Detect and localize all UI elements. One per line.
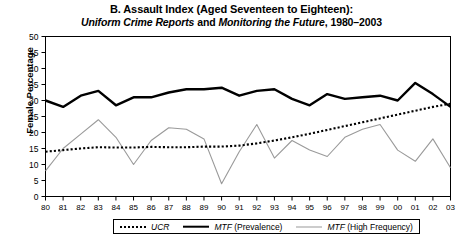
x-tick-label: 83 — [94, 203, 103, 212]
y-tick-label: 25 — [29, 112, 39, 122]
x-tick-label: 86 — [147, 203, 156, 212]
x-tick-label: 80 — [41, 203, 50, 212]
legend-label-high-italic: MTF — [327, 222, 344, 232]
y-tick-label: 5 — [34, 176, 39, 186]
legend-item-mtf-high-frequency: MTF (High Frequency) — [296, 222, 413, 232]
legend-item-ucr: UCR — [120, 222, 169, 232]
plot-area: 05101520253035404550 8081828384858687888… — [0, 0, 463, 215]
x-tick-label: 97 — [340, 203, 349, 212]
y-tick-label: 45 — [29, 48, 39, 58]
legend-label-mtf-prevalence: MTF (Prevalence) — [214, 222, 282, 232]
x-axis-ticks: 8081828384858687888990919293949596979899… — [41, 197, 455, 212]
y-tick-label: 40 — [29, 64, 39, 74]
x-tick-label: 96 — [323, 203, 332, 212]
x-tick-label: 98 — [358, 203, 367, 212]
legend-label-prev-rest: (Prevalence) — [232, 222, 283, 232]
legend-swatch-dotted-icon — [120, 223, 146, 231]
x-tick-label: 81 — [59, 203, 68, 212]
x-tick-label: 93 — [270, 203, 279, 212]
y-axis-ticks: 05101520253035404550 — [29, 32, 45, 202]
legend-label-high-rest: (High Frequency) — [345, 222, 413, 232]
y-tick-label: 30 — [29, 96, 39, 106]
legend-label-mtf-high-frequency: MTF (High Frequency) — [327, 222, 413, 232]
legend-swatch-solid-thick-icon — [183, 223, 209, 231]
legend-item-mtf-prevalence: MTF (Prevalence) — [183, 222, 282, 232]
series-line-mtf-prevalence — [46, 83, 451, 107]
x-tick-label: 84 — [111, 203, 120, 212]
figure-container: B. Assault Index (Aged Seventeen to Eigh… — [0, 0, 463, 239]
plot-frame — [46, 37, 451, 197]
x-tick-label: 03 — [446, 203, 455, 212]
x-tick-label: 95 — [305, 203, 314, 212]
y-tick-label: 35 — [29, 80, 39, 90]
x-tick-label: 89 — [200, 203, 209, 212]
x-tick-label: 01 — [411, 203, 420, 212]
legend-label-ucr-italic: UCR — [151, 222, 169, 232]
x-tick-label: 91 — [235, 203, 244, 212]
x-tick-label: 94 — [288, 203, 297, 212]
chart-legend: UCR MTF (Prevalence) MTF (High Frequency… — [113, 219, 420, 234]
y-tick-label: 50 — [29, 32, 39, 42]
x-tick-label: 00 — [393, 203, 402, 212]
x-tick-label: 87 — [164, 203, 173, 212]
x-tick-label: 88 — [182, 203, 191, 212]
legend-swatch-solid-thin-icon — [296, 223, 322, 231]
x-tick-label: 82 — [76, 203, 85, 212]
y-tick-label: 10 — [29, 160, 39, 170]
legend-label-prev-italic: MTF — [214, 222, 231, 232]
y-tick-label: 20 — [29, 128, 39, 138]
data-series-layer — [46, 83, 451, 184]
x-tick-label: 85 — [129, 203, 138, 212]
x-tick-label: 99 — [376, 203, 385, 212]
y-tick-label: 15 — [29, 144, 39, 154]
series-line-mtf-high-frequency — [46, 120, 451, 184]
y-tick-label: 0 — [34, 192, 39, 202]
x-tick-label: 90 — [217, 203, 226, 212]
x-tick-label: 92 — [252, 203, 261, 212]
x-tick-label: 02 — [428, 203, 437, 212]
legend-label-ucr: UCR — [151, 222, 169, 232]
